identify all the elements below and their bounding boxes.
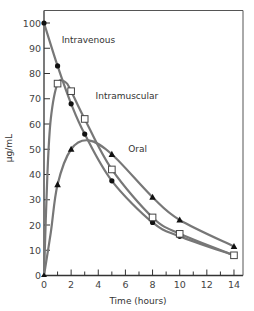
x-tick-label: 12 [201,279,213,290]
square-marker [81,116,88,123]
square-marker [109,166,116,173]
square-marker [54,80,61,87]
y-tick-label: 40 [29,169,41,180]
y-tick-label: 50 [29,144,41,155]
circle-marker [109,178,114,183]
x-tick-label: 0 [41,279,47,290]
circle-marker [69,101,74,106]
y-tick-label: 70 [29,93,41,104]
x-tick-label: 14 [228,279,240,290]
origin-marker [41,273,47,278]
y-tick-label: 100 [23,18,41,29]
x-tick-label: 6 [122,279,128,290]
y-tick-label: 30 [29,194,41,205]
square-marker [231,252,238,259]
chart-svg: 010203040506070809010002468101214 Intrav… [0,0,254,311]
y-tick-label: 10 [29,245,41,256]
circle-marker [82,132,87,137]
circle-marker [55,63,60,68]
x-tick-label: 4 [95,279,101,290]
annotation-oral: Oral [128,144,147,154]
annotations: IntravenousIntramuscularOral [62,35,159,154]
pharmacokinetics-chart: 010203040506070809010002468101214 Intrav… [0,0,254,311]
annotation-intravenous: Intravenous [62,35,116,45]
x-tick-label: 2 [68,279,74,290]
x-tick-label: 8 [150,279,156,290]
square-marker [149,214,156,221]
square-marker [176,231,183,238]
y-tick-label: 60 [29,119,41,130]
annotation-intramuscular: Intramuscular [96,91,159,101]
square-marker [68,88,75,95]
curve-oral [44,140,234,275]
y-axis-title: µg/mL [4,134,14,162]
x-tick-label: 10 [174,279,186,290]
y-tick-label: 90 [29,43,41,54]
triangle-marker [54,181,61,187]
x-axis-title: Time (hours) [108,296,166,306]
y-tick-label: 80 [29,68,41,79]
circle-marker [41,20,46,25]
curve-intravenous [44,23,234,255]
y-tick-label: 20 [29,220,41,231]
